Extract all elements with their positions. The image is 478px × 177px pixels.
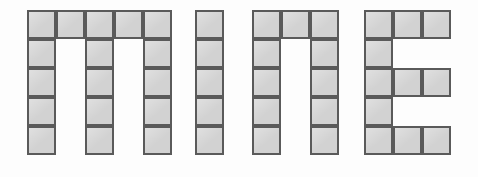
block-cell — [143, 39, 172, 68]
block-cell — [195, 126, 224, 155]
block-cell — [143, 97, 172, 126]
block-cell — [27, 10, 56, 39]
block-cell — [27, 39, 56, 68]
block-cell — [364, 10, 393, 39]
block-cell — [422, 126, 451, 155]
block-cell — [195, 97, 224, 126]
block-cell — [393, 68, 422, 97]
block-cell — [195, 39, 224, 68]
block-letter-canvas: mine — [0, 0, 478, 177]
block-cell — [364, 126, 393, 155]
letter-n — [252, 10, 339, 155]
block-cell — [27, 126, 56, 155]
block-cell — [252, 126, 281, 155]
block-cell — [27, 68, 56, 97]
letter-i — [195, 10, 224, 155]
block-cell — [114, 10, 143, 39]
block-cell — [195, 68, 224, 97]
block-cell — [252, 39, 281, 68]
block-cell — [393, 126, 422, 155]
block-cell — [364, 39, 393, 68]
block-cell — [281, 10, 310, 39]
block-cell — [364, 68, 393, 97]
block-cell — [143, 126, 172, 155]
block-cell — [310, 68, 339, 97]
block-cell — [85, 126, 114, 155]
block-cell — [85, 68, 114, 97]
block-cell — [85, 97, 114, 126]
block-cell — [310, 10, 339, 39]
block-cell — [252, 68, 281, 97]
block-cell — [310, 39, 339, 68]
block-cell — [422, 68, 451, 97]
block-cell — [143, 10, 172, 39]
block-cell — [56, 10, 85, 39]
block-cell — [310, 126, 339, 155]
letter-m — [27, 10, 172, 155]
block-cell — [393, 10, 422, 39]
block-cell — [85, 10, 114, 39]
block-cell — [143, 68, 172, 97]
block-cell — [27, 97, 56, 126]
block-cell — [310, 97, 339, 126]
letter-e — [364, 10, 451, 155]
block-cell — [85, 39, 114, 68]
block-cell — [252, 97, 281, 126]
block-cell — [195, 10, 224, 39]
block-cell — [252, 10, 281, 39]
block-cell — [364, 97, 393, 126]
block-cell — [422, 10, 451, 39]
